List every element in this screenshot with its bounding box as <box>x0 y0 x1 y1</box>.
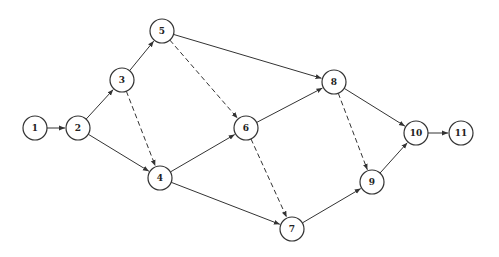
edge-5-to-6 <box>170 40 238 118</box>
edge-9-to-10 <box>380 143 407 173</box>
edge-8-to-9 <box>338 93 367 170</box>
node-4: 4 <box>148 166 172 190</box>
node-2: 2 <box>66 116 90 140</box>
node-label: 5 <box>159 26 165 36</box>
edge-6-to-8 <box>257 88 323 122</box>
edge-3-to-5 <box>130 41 154 71</box>
edge-8-to-10 <box>344 88 405 126</box>
node-label: 4 <box>157 173 163 183</box>
edge-6-to-7 <box>251 139 287 217</box>
node-6: 6 <box>234 116 258 140</box>
node-label: 9 <box>369 177 375 187</box>
node-9: 9 <box>360 170 384 194</box>
edge-4-to-7 <box>171 182 280 224</box>
edge-5-to-8 <box>174 34 322 78</box>
node-label: 10 <box>410 128 423 138</box>
edge-3-to-4 <box>126 91 155 166</box>
node-11: 11 <box>449 121 473 145</box>
node-7: 7 <box>280 217 304 241</box>
node-label: 7 <box>289 224 295 234</box>
node-label: 3 <box>119 75 125 85</box>
node-label: 6 <box>243 123 249 133</box>
node-3: 3 <box>110 68 134 92</box>
edge-2-to-3 <box>86 90 113 120</box>
node-label: 2 <box>75 123 81 133</box>
node-label: 8 <box>331 77 337 87</box>
node-10: 10 <box>404 121 428 145</box>
edge-4-to-6 <box>170 135 234 172</box>
node-5: 5 <box>150 19 174 43</box>
node-label: 1 <box>32 123 38 133</box>
node-label: 11 <box>455 128 468 138</box>
node-1: 1 <box>23 116 47 140</box>
node-8: 8 <box>322 70 346 94</box>
edge-7-to-9 <box>302 189 360 223</box>
nodes-layer: 1234567891011 <box>23 19 473 241</box>
network-diagram: 1234567891011 <box>0 0 499 257</box>
edge-2-to-4 <box>88 134 149 171</box>
